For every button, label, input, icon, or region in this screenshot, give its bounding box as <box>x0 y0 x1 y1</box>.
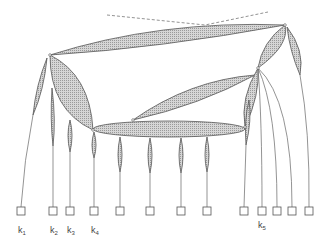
leaf-boxes <box>17 207 313 215</box>
line-leaf-11 <box>258 68 277 207</box>
leaf-box <box>177 207 185 215</box>
label-k2: k2 <box>50 225 59 236</box>
label-k1: k1 <box>18 225 27 236</box>
label-k3: k3 <box>67 225 76 236</box>
leaf-box <box>258 207 266 215</box>
leaf-box <box>273 207 281 215</box>
leaf-box <box>17 207 25 215</box>
leaf-box <box>49 207 57 215</box>
leaf-box <box>146 207 154 215</box>
line-leaf-9 <box>244 145 246 207</box>
edge-leaf-5 <box>118 137 122 172</box>
line-k1 <box>21 115 33 207</box>
edge-top <box>50 24 285 55</box>
edge-leaf-7 <box>179 138 183 173</box>
dashed-line <box>107 12 268 25</box>
edge-left-k2 <box>51 88 54 146</box>
edge-right-thin <box>287 27 301 75</box>
leaf-box <box>116 207 124 215</box>
tree-diagram: k1 k2 k3 k4 k5 <box>0 0 330 245</box>
edge-middle-horizontal <box>93 121 245 137</box>
leaf-box <box>66 207 74 215</box>
leaf-box <box>240 207 248 215</box>
edge-k4 <box>92 132 96 158</box>
leaf-box <box>203 207 211 215</box>
line-leaf-10 <box>258 68 262 207</box>
leaf-box <box>90 207 98 215</box>
line-leaf-12 <box>258 68 292 207</box>
leaf-box <box>288 207 296 215</box>
label-k5: k5 <box>258 220 267 231</box>
edge-leaf-8 <box>205 137 209 172</box>
edge-diagonal <box>133 75 255 120</box>
leaf-box <box>305 207 313 215</box>
edge-leaf-6 <box>148 138 152 173</box>
line-to-leaf-13 <box>300 75 309 207</box>
edge-left-big <box>50 55 93 130</box>
edge-left-k1 <box>33 58 47 115</box>
edge-left-k3 <box>68 120 72 152</box>
edge-right-upper <box>258 25 286 68</box>
label-k4: k4 <box>91 225 100 236</box>
